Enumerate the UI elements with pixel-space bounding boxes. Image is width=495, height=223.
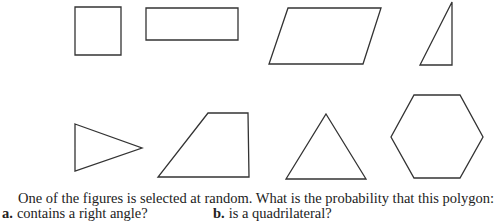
trapezoid-figure	[158, 113, 249, 177]
hexagon-figure	[391, 95, 483, 178]
part-b-text: is a quadrilateral?	[229, 205, 332, 221]
part-a-label: a.	[2, 205, 13, 221]
rectangle-figure	[146, 8, 238, 40]
triangle-right-pointing-figure	[75, 124, 142, 171]
square-figure	[75, 7, 121, 55]
part-b-label: b.	[213, 205, 225, 221]
part-a: a.contains a right angle?	[2, 205, 148, 222]
part-b: b.is a quadrilateral?	[213, 205, 332, 222]
part-a-text: contains a right angle?	[17, 205, 148, 221]
parallelogram-figure	[269, 8, 381, 64]
equilateral-triangle-figure	[286, 114, 366, 179]
right-triangle-figure	[420, 2, 452, 65]
